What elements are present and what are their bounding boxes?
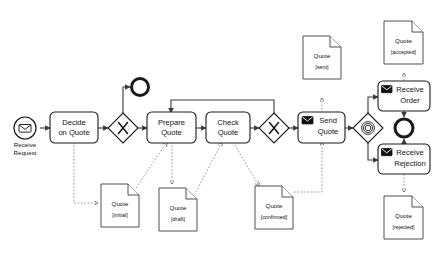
flow-gateway1-to-end-top [123, 87, 130, 114]
data-object-quote-confirmed[interactable]: Quote [confirmed] [255, 186, 293, 229]
task-receive-rejection-label-line1: Receive [396, 148, 423, 157]
task-receive-order-label-line2: Order [400, 96, 420, 105]
task-send-quote[interactable]: Send Quote [298, 112, 345, 143]
data-object-quote-rejected-name: Quote [395, 212, 412, 219]
envelope-icon [382, 149, 393, 156]
end-event-right[interactable] [395, 119, 413, 137]
data-object-quote-accepted-state: [accepted] [391, 49, 416, 55]
task-send-quote-label-line2: Quote [318, 127, 339, 136]
data-object-quote-sent[interactable]: Quote [sent] [303, 36, 341, 79]
task-send-quote-label-line1: Send [319, 116, 337, 125]
data-object-quote-initial-fold [128, 184, 139, 195]
task-prepare-quote[interactable]: Prepare Quote [147, 112, 196, 143]
task-check-quote-label-line1: Check [217, 118, 239, 127]
data-object-quote-initial-name: Quote [112, 200, 129, 207]
task-prepare-quote-label-line2: Quote [161, 128, 182, 137]
start-event-receive-request[interactable]: Receive Request [13, 117, 36, 156]
envelope-icon [19, 125, 31, 133]
start-event-label-line1: Receive [14, 141, 37, 148]
task-decide-on-quote-label-line2: on Quote [58, 128, 89, 137]
assoc-quote-draft-to-check [196, 142, 222, 192]
data-object-quote-confirmed-fold [282, 186, 293, 197]
bpmn-diagram-svg: Receive Request Decide on Quote Prepare … [0, 0, 444, 256]
task-receive-order-label-line1: Receive [396, 85, 423, 94]
data-object-quote-accepted[interactable]: Quote [accepted] [384, 21, 423, 64]
data-object-quote-rejected-fold [412, 196, 423, 207]
task-decide-on-quote[interactable]: Decide on Quote [50, 112, 98, 143]
task-receive-order[interactable]: Receive Order [378, 81, 430, 111]
task-receive-rejection[interactable]: Receive Rejection [378, 144, 430, 174]
data-object-quote-draft-fold [186, 188, 197, 199]
data-object-quote-draft[interactable]: Quote [draft] [159, 188, 197, 231]
gateway-event-based[interactable] [353, 113, 383, 143]
assoc-quote-initial-to-prepare [136, 142, 167, 188]
task-check-quote[interactable]: Check Quote [206, 112, 250, 143]
task-check-quote-label-line2: Quote [218, 128, 239, 137]
data-object-quote-sent-state: [sent] [315, 64, 329, 70]
bpmn-diagram-canvas: Receive Request Decide on Quote Prepare … [0, 0, 444, 256]
envelope-icon [302, 117, 313, 124]
gateway-xor-1[interactable] [108, 113, 138, 143]
start-event-label-line2: Request [13, 149, 36, 156]
flow-gateway2-loop-to-prepare [171, 100, 274, 113]
assoc-decide-to-quote-initial [74, 142, 98, 203]
assoc-check-to-quote-confirmed [233, 142, 259, 186]
assoc-quote-confirmed-to-send [294, 142, 322, 192]
flow-event-gateway-to-receive-order [368, 97, 378, 113]
task-decide-on-quote-label-line1: Decide [62, 118, 86, 127]
gateway-event-based-diamond [353, 113, 383, 143]
data-object-quote-draft-state: [draft] [171, 216, 185, 222]
end-event-top[interactable] [132, 79, 149, 96]
data-object-quote-confirmed-name: Quote [266, 202, 283, 209]
data-object-quote-sent-name: Quote [314, 52, 331, 59]
envelope-icon [382, 86, 393, 93]
data-object-quote-accepted-name: Quote [395, 37, 412, 44]
data-object-quote-confirmed-state: [confirmed] [261, 214, 288, 220]
data-object-quote-initial[interactable]: Quote [initial] [101, 184, 139, 227]
data-object-quote-draft-name: Quote [170, 204, 187, 211]
data-object-quote-rejected[interactable]: Quote [rejected] [384, 196, 423, 239]
data-object-quote-rejected-state: [rejected] [392, 224, 415, 230]
gateway-xor-2[interactable] [259, 113, 289, 143]
end-event-top-circle [132, 79, 149, 96]
task-receive-rejection-label-line2: Rejection [394, 159, 426, 168]
end-event-right-circle [395, 119, 413, 137]
task-prepare-quote-label-line1: Prepare [158, 118, 185, 127]
data-object-quote-initial-state: [initial] [112, 212, 128, 218]
flow-event-gateway-to-receive-rejection [368, 143, 378, 160]
